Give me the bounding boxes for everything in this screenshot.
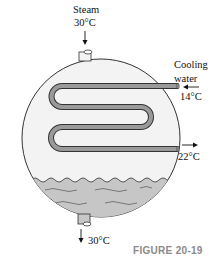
cooling-out-arrow-icon — [182, 143, 198, 148]
figure-caption: FIGURE 20-19 — [133, 245, 203, 256]
condensate-outlet-nozzle — [78, 214, 91, 226]
cooling-in-arrow-icon — [183, 85, 199, 90]
steam-arrow-icon — [83, 31, 88, 45]
cooling-out-temp: 22°C — [178, 151, 200, 163]
cooling-in-temp: 14°C — [180, 91, 202, 103]
steam-temp: 30°C — [74, 17, 96, 29]
cooling-water-label-2: water — [174, 73, 197, 85]
steam-inlet-nozzle — [79, 50, 92, 61]
condensate-liquid — [15, 178, 200, 230]
condensate-temp: 30°C — [88, 235, 110, 247]
steam-label: Steam — [73, 4, 99, 16]
condenser-diagram — [0, 0, 216, 260]
condensate-arrow-icon — [79, 229, 84, 243]
cooling-water-label-1: Cooling — [174, 59, 208, 71]
